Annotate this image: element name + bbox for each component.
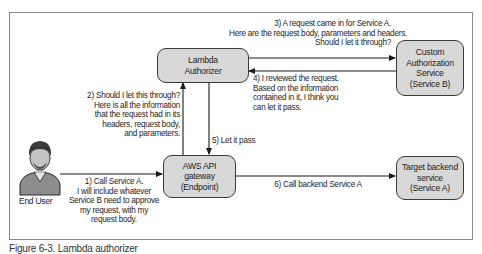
label-line: 1) Call Service A. bbox=[66, 177, 162, 187]
step5-label: 5) Let it pass bbox=[212, 136, 255, 146]
node-line: Authorizer bbox=[184, 66, 221, 77]
end-user-icon bbox=[18, 138, 62, 196]
node-line: gateway bbox=[184, 171, 215, 182]
label-line: I will include whatever bbox=[66, 187, 162, 197]
label-line: Service B need to approve bbox=[66, 196, 162, 206]
end-user-label: End User bbox=[19, 196, 52, 206]
custom-authorization-service-node: Custom Authorization Service (Service B) bbox=[396, 40, 464, 96]
label-line: my request, with my bbox=[66, 206, 162, 216]
label-line: request body. bbox=[66, 215, 162, 225]
label-line: can let it pass. bbox=[253, 103, 393, 113]
lambda-authorizer-node: Lambda Authorizer bbox=[157, 48, 249, 83]
node-line: service bbox=[417, 173, 443, 184]
node-line: Authorization bbox=[406, 58, 454, 69]
label-line: Here is all the information bbox=[70, 101, 180, 111]
figure-caption: Figure 6-3. Lambda authorizer bbox=[9, 243, 138, 254]
step4-label: 4) I reviewed the request. Based on the … bbox=[253, 74, 393, 112]
step6-label: 6) Call backend Service A bbox=[260, 180, 376, 190]
label-line: 3) A request came in for Service A. bbox=[229, 19, 391, 29]
node-line: Lambda bbox=[188, 55, 218, 66]
label-line: headers, request body, bbox=[70, 120, 180, 130]
node-line: Target backend bbox=[402, 162, 458, 173]
label-line: Based on the information bbox=[253, 84, 393, 94]
step1-label: 1) Call Service A. I will include whatev… bbox=[66, 177, 162, 225]
label-line: Should I let it through? bbox=[229, 38, 391, 48]
label-text: 5) Let it pass bbox=[212, 136, 255, 145]
node-line: AWS API bbox=[183, 161, 217, 172]
node-line: (Service A) bbox=[410, 183, 450, 194]
label-line: 4) I reviewed the request. bbox=[253, 74, 393, 84]
node-line: (Endpoint) bbox=[181, 182, 219, 193]
label-line: contained in it, I think you bbox=[253, 93, 393, 103]
label-line: and parameters. bbox=[70, 129, 180, 139]
label-line: 2) Should I let this through? bbox=[70, 91, 180, 101]
step2-label: 2) Should I let this through? Here is al… bbox=[70, 91, 180, 139]
api-gateway-node: AWS API gateway (Endpoint) bbox=[163, 155, 236, 198]
node-line: (Service B) bbox=[410, 79, 450, 90]
step3-label: 3) A request came in for Service A. Here… bbox=[229, 19, 391, 48]
label-text: 6) Call backend Service A bbox=[274, 180, 362, 189]
label-line: that the request had in its bbox=[70, 110, 180, 120]
node-line: Service bbox=[416, 68, 443, 79]
label-line: Here are the request body, parameters an… bbox=[229, 29, 391, 39]
target-backend-service-node: Target backend service (Service A) bbox=[396, 156, 464, 200]
node-line: Custom bbox=[416, 47, 444, 58]
